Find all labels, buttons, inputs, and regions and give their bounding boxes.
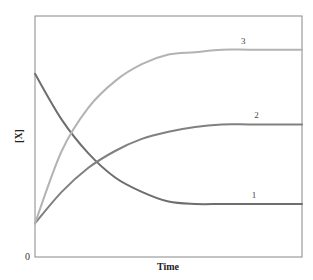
line-chart: 123 0 Time [X] — [0, 0, 313, 280]
x-axis-title: Time — [157, 261, 180, 272]
curve-label-2: 2 — [254, 110, 259, 120]
curve-labels: 123 — [241, 36, 259, 200]
y-axis-title: [X] — [13, 129, 24, 143]
curve-1 — [35, 74, 302, 204]
chart: 123 0 Time [X] — [0, 0, 313, 280]
curve-label-1: 1 — [252, 190, 257, 200]
curve-label-3: 3 — [241, 36, 246, 46]
curves — [35, 50, 302, 224]
y-origin-label: 0 — [25, 251, 30, 262]
